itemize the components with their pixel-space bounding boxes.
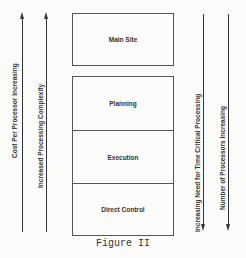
planning-box: Planning bbox=[73, 77, 173, 130]
direct-control-box: Direct Control bbox=[73, 184, 173, 235]
main-site-label: Main Site bbox=[73, 14, 173, 65]
main-site-box: Main Site bbox=[72, 13, 174, 66]
processing-complexity-label: Increased Processing Complexity bbox=[37, 84, 44, 188]
number-of-processors-label: Number of Processors Increasing bbox=[219, 106, 226, 210]
arrow-shaft bbox=[228, 14, 229, 224]
arrow-shaft bbox=[46, 17, 47, 232]
execution-box: Execution bbox=[73, 131, 173, 183]
arrow-head-down-icon bbox=[226, 224, 230, 231]
cost-per-processor-label: Cost Per Processor Increasing bbox=[11, 63, 18, 158]
arrow-shaft bbox=[203, 14, 204, 224]
arrow-shaft bbox=[22, 17, 23, 232]
caption-text: Figure II bbox=[96, 238, 150, 249]
processing-stack: Planning Execution Direct Control bbox=[72, 76, 174, 236]
figure-caption: Figure II bbox=[0, 238, 246, 249]
arrow-head-down-icon bbox=[201, 224, 205, 231]
time-critical-label: Increasing Need for Time Critical Proces… bbox=[194, 94, 201, 232]
